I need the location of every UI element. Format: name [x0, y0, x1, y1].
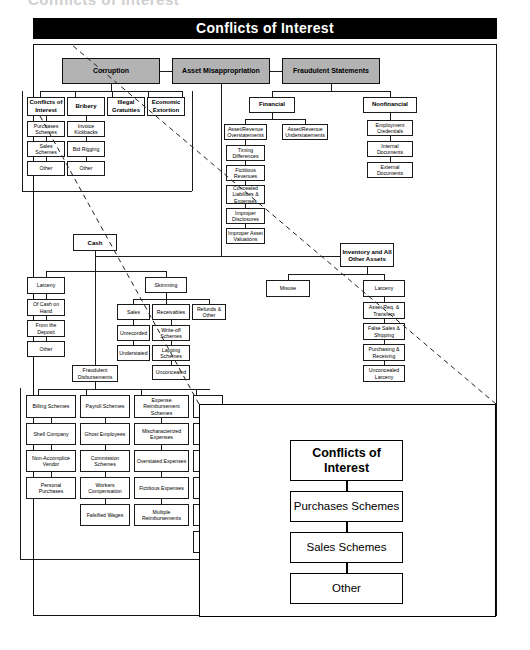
magnified-callout-panel: Conflicts of Interest Purchases Schemes …: [199, 404, 496, 617]
node-cash: Cash: [73, 234, 117, 251]
node-unconcealed-larceny: Unconcealed Larceny: [363, 365, 405, 382]
node-false-sales-shipping: False Sales & Shipping: [363, 323, 405, 340]
callout-header-box: Conflicts of Interest: [290, 440, 403, 481]
node-lapping-schemes: Lapping Schemes: [152, 345, 190, 361]
node-refunds-and-other: Refunds & Other: [192, 304, 226, 320]
node-multiple-reimbursements: Multiple Reimbursements: [134, 504, 189, 526]
node-improper-asset-valuations: Improper Asset Valuations: [226, 228, 265, 244]
node-inventory-larceny: Larceny: [363, 280, 405, 297]
node-shell-company: Shell Company: [26, 423, 76, 445]
diagram-title-text: Conflicts of Interest: [33, 18, 497, 39]
node-unrecorded: Unrecorded: [117, 325, 150, 341]
node-workers-compensation: Workers Compensation: [80, 477, 130, 499]
node-purchases-schemes: Purchases Schemes: [27, 121, 65, 137]
node-nonfinancial: Nonfinancial: [363, 97, 417, 113]
node-internal-documents: Internal Documents: [367, 141, 413, 157]
diagram-title-banner: Conflicts of Interest: [33, 18, 497, 39]
node-fraudulent-disbursements: Fraudulent Disbursements: [72, 365, 118, 382]
node-illegal-gratuities: Illegal Gratuities: [107, 97, 145, 116]
callout-purchases-schemes: Purchases Schemes: [290, 491, 403, 522]
node-asset-revenue-understatements: Asset/Revenue Understatements: [282, 124, 328, 140]
node-skimming-receivables: Receivables: [152, 304, 190, 320]
node-sales-schemes: Sales Schemes: [27, 141, 65, 157]
node-personal-purchases: Personal Purchases: [26, 477, 76, 499]
node-purchasing-receiving: Purchasing & Receiving: [363, 344, 405, 361]
node-skimming-sales: Sales: [117, 304, 150, 320]
node-commission-schemes: Commission Schemes: [80, 450, 130, 472]
node-billing-schemes: Billing Schemes: [26, 395, 76, 418]
node-asset-revenue-overstatements: Asset/Revenue Overstatements: [224, 124, 267, 140]
node-employment-credentials: Employment Credentials: [367, 120, 413, 136]
node-cash-larceny-other: Other: [27, 341, 65, 357]
node-financial: Financial: [249, 97, 295, 113]
node-external-documents: External Documents: [367, 162, 413, 178]
node-fraudulent-statements: Fraudulent Statements: [282, 58, 380, 84]
node-invoice-kickbacks: Invoice Kickbacks: [67, 121, 105, 137]
node-bid-rigging: Bid Rigging: [67, 141, 105, 157]
cut-off-page-heading: Conflicts of Interest: [28, 0, 328, 9]
node-non-accomplice-vendor: Non-Accomplice Vendor: [26, 450, 76, 472]
callout-sales-schemes: Sales Schemes: [290, 532, 403, 563]
node-bribery-other: Other: [67, 161, 105, 176]
node-asset-req-transfers: Asset Req. & Transfers: [363, 302, 405, 319]
node-of-cash-on-hand: Of Cash on Hand: [27, 299, 65, 316]
node-improper-disclosures: Improper Disclosures: [226, 208, 265, 224]
node-unconcealed: Unconcealed: [152, 365, 190, 380]
node-corruption-coi-other: Other: [27, 161, 65, 176]
node-bribery: Bribery: [67, 97, 105, 116]
node-write-off-schemes: Write-off Schemes: [152, 325, 190, 341]
fraud-tree-diagram: Conflicts of Interest Conflicts of Inter…: [0, 0, 530, 650]
node-cash-larceny: Larceny: [27, 277, 65, 294]
callout-other: Other: [290, 573, 403, 604]
node-fictitious-expenses: Fictitious Expenses: [134, 477, 189, 499]
node-expense-reimbursement-schemes: Expense Reimbursement Schemes: [134, 395, 189, 418]
node-overstated-expenses: Overstated Expenses: [134, 450, 189, 472]
node-mischaracterized-expenses: Mischaracterized Expenses: [134, 423, 189, 445]
node-conflicts-of-interest: Conflicts of Interest: [27, 97, 65, 116]
node-economic-extortion: Economic Extortion: [147, 97, 185, 116]
node-falsified-wages: Falsified Wages: [80, 504, 130, 526]
node-fictitious-revenues: Fictitious Revenues: [226, 165, 265, 181]
node-timing-differences: Timing Differences: [226, 145, 265, 161]
node-ghost-employees: Ghost Employees: [80, 423, 130, 445]
node-misuse: Misuse: [266, 280, 310, 297]
node-skimming: Skimming: [145, 277, 187, 293]
node-asset-misappropriation: Asset Misappropriation: [172, 58, 270, 84]
node-inventory-and-all-other-assets: Inventory and All Other Assets: [340, 243, 394, 267]
node-understated: Understated: [117, 345, 150, 361]
node-payroll-schemes: Payroll Schemes: [80, 395, 130, 418]
node-from-the-deposit: From the Deposit: [27, 320, 65, 337]
node-concealed-liabilities-expenses: Concealed Liabilities & Expenses: [226, 185, 265, 204]
node-corruption: Corruption: [62, 58, 160, 84]
